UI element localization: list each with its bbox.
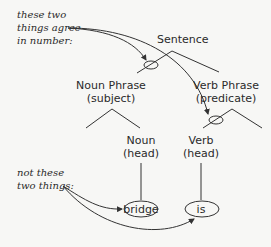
agree-note-line-2: things agree [17,22,81,33]
noun-phrase-branch [86,109,140,128]
verb-phrase-role: (predicate) [196,92,257,105]
leaf-bridge: bridge [123,203,159,216]
leaf-is: is [197,203,206,216]
syntax-tree-diagram: these two things agree in number: Senten… [0,0,271,247]
verb-head-label: Verb [189,134,214,147]
verb-phrase-label: Verb Phrase [193,79,259,92]
sentence-label: Sentence [157,33,209,46]
agreement-marker-np [144,61,158,69]
sentence-branch [137,51,219,73]
not-agree-note-line-1: not these [17,167,64,178]
verb-phrase-branch [203,109,262,128]
noun-head-role: (head) [123,147,159,160]
noun-head-label: Noun [127,134,156,147]
agree-note-line-3: in number: [17,35,73,46]
agree-note-line-1: these two [17,9,66,20]
verb-head-role: (head) [183,147,219,160]
noun-phrase-role: (subject) [87,92,135,105]
noun-phrase-label: Noun Phrase [76,79,146,92]
